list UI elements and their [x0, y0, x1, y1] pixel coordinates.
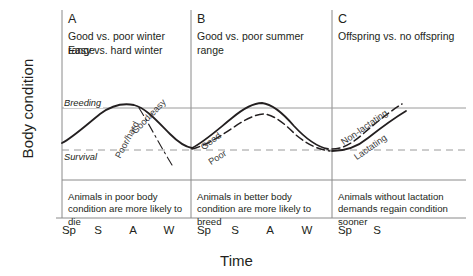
panel-heading-c-line1: Offspring vs. no offspring: [338, 30, 468, 44]
panel-letter-c: C: [338, 12, 347, 26]
figure-body-condition-diagram: Body condition Time Breeding Survival A …: [0, 0, 473, 276]
panel-heading-a-line2: Easy vs. hard winter: [68, 44, 188, 58]
panel-letter-b: B: [197, 12, 205, 26]
x-tick-a-w: W: [158, 224, 180, 236]
panel-letter-a: A: [68, 12, 76, 26]
survival-line-label: Survival: [64, 152, 99, 162]
x-tick-a-sp: Sp: [58, 224, 80, 236]
panel-heading-b-line1: Good vs. poor summer range: [197, 30, 332, 57]
x-tick-b-w: W: [296, 224, 318, 236]
breeding-line-label: Breeding: [64, 98, 103, 108]
x-tick-c-sp: Sp: [334, 224, 356, 236]
panel-footer-a: Animals in poor body condition are more …: [68, 191, 186, 228]
x-tick-a-a: A: [122, 224, 144, 236]
panel-footer-c: Animals without lactation demands regain…: [338, 191, 462, 228]
x-tick-b-s: S: [224, 224, 246, 236]
x-tick-a-s: S: [87, 224, 109, 236]
x-tick-c-s: S: [366, 224, 388, 236]
x-tick-b-sp: Sp: [193, 224, 215, 236]
panel-footer-b: Animals in better body condition are mor…: [197, 191, 319, 228]
x-tick-b-a: A: [259, 224, 281, 236]
